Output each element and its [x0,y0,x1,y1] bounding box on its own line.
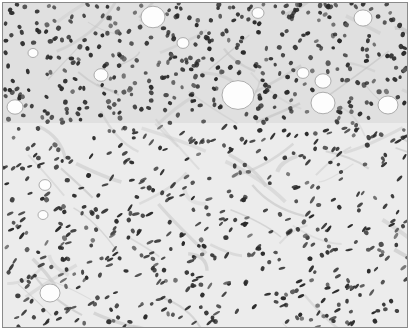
fat-vacuole [354,10,372,26]
fat-vacuole [222,81,254,110]
tissue-micrograph [3,3,407,327]
nucleus [243,163,247,168]
dense-cellular-zone [3,3,407,123]
nucleus [114,90,118,94]
fat-vacuole [177,38,189,49]
micrograph-frame [2,2,408,328]
nucleus [358,293,362,297]
fat-vacuole [378,96,398,114]
fat-vacuole [28,49,38,58]
fat-vacuole [141,6,165,28]
nucleus [337,302,341,307]
fat-vacuole [39,180,51,191]
fat-vacuole [311,92,335,114]
fat-vacuole [7,100,23,114]
nucleus [149,35,154,39]
nucleus [219,69,223,74]
fat-vacuole [38,211,48,220]
fat-vacuole [40,284,60,302]
fat-vacuole [252,8,264,19]
fat-vacuole [297,68,309,79]
fat-vacuole [94,69,108,82]
fat-vacuole [315,74,331,88]
